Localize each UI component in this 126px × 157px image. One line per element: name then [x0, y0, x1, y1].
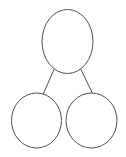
diagram-canvas-svg: [0, 0, 126, 157]
connector-line-left: [43, 70, 54, 95]
part-circle-right[interactable]: [66, 93, 117, 148]
part-circle-left[interactable]: [12, 93, 62, 148]
number-bond-diagram: [0, 0, 126, 157]
connector-line-right: [81, 70, 93, 95]
whole-circle[interactable]: [42, 10, 93, 74]
